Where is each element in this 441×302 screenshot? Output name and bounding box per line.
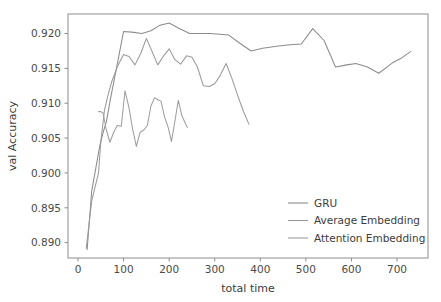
x-tick-label: 300 [205, 263, 225, 275]
x-tick-label: 400 [250, 263, 270, 275]
legend-label-attention-embedding: Attention Embedding [314, 232, 425, 244]
y-tick-label: 0.895 [31, 202, 61, 214]
x-axis-title: total time [221, 282, 275, 295]
chart-figure: 0100200300400500600700 0.8900.8950.9000.… [0, 0, 441, 302]
y-tick-label: 0.905 [31, 132, 61, 144]
y-tick-label: 0.915 [31, 62, 61, 74]
x-tick-label: 100 [114, 263, 134, 275]
y-axis-title: val Accuracy [6, 101, 19, 172]
line-chart: 0100200300400500600700 0.8900.8950.9000.… [0, 0, 441, 302]
x-tick-label: 700 [387, 263, 407, 275]
x-tick-label: 600 [341, 263, 361, 275]
y-tick-label: 0.910 [31, 97, 61, 109]
y-tick-label: 0.900 [31, 167, 61, 179]
y-tick-label: 0.920 [31, 27, 61, 39]
x-tick-label: 200 [159, 263, 179, 275]
legend-label-average-embedding: Average Embedding [314, 214, 420, 226]
legend-label-gru: GRU [314, 197, 337, 209]
x-tick-label: 500 [296, 263, 316, 275]
y-tick-label: 0.890 [31, 236, 61, 248]
figure-background [0, 0, 441, 302]
x-tick-label: 0 [75, 263, 82, 275]
